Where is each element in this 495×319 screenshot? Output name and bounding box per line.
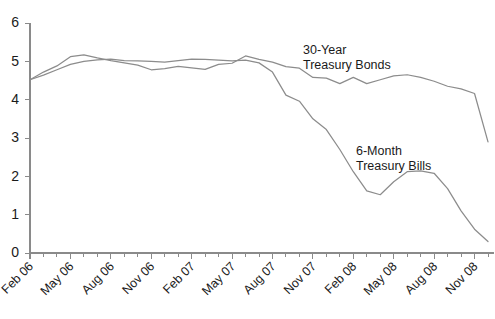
y-axis-tick-label: 3 [11,129,19,145]
annotation-label-line: 30-Year [303,43,346,57]
annotation-label-line: Treasury Bills [356,159,431,173]
y-axis-tick-label: 6 [11,14,19,30]
y-axis-tick-label: 0 [11,244,19,260]
y-axis-tick-label: 2 [11,168,19,184]
y-axis-tick-label: 1 [11,206,19,222]
y-axis-tick-label: 5 [11,53,19,69]
annotation-label-line: Treasury Bonds [303,58,391,72]
annotation-label-line: 6-Month [356,144,402,158]
treasury-yield-line-chart: 0123456 Feb 06May 06Aug 06Nov 06Feb 07Ma… [0,0,495,319]
y-axis-tick-label: 4 [11,91,19,107]
chart-container: 0123456 Feb 06May 06Aug 06Nov 06Feb 07Ma… [0,0,495,319]
